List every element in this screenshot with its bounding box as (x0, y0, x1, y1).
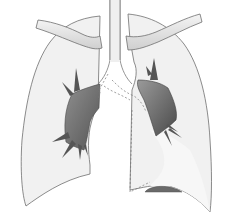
trachea-fill (110, 0, 120, 62)
lungs-illustration (0, 0, 235, 218)
lungs-svg (0, 0, 235, 218)
